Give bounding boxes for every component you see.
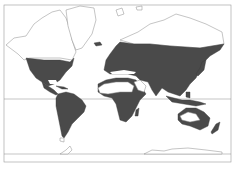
region-alaska-arctic-canada <box>6 10 76 60</box>
region-tierra-del-fuego <box>60 138 64 142</box>
region-northern-siberia <box>120 14 224 48</box>
region-new-zealand <box>211 122 220 134</box>
world-map <box>0 0 237 169</box>
region-antarctica-west <box>60 146 72 154</box>
world-map-svg <box>0 0 237 169</box>
region-caribbean <box>56 86 68 89</box>
region-franz-josef <box>136 6 142 10</box>
region-antarctica-east <box>144 148 222 154</box>
region-svalbard <box>116 8 124 16</box>
region-philippines <box>186 92 190 98</box>
region-indonesia <box>166 96 206 106</box>
region-iceland <box>94 42 102 46</box>
